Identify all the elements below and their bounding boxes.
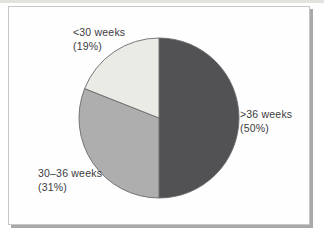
pie-label-text: 30–36 weeks (38, 167, 102, 181)
pie-chart-figure: <30 weeks (19%) >36 weeks (50%) 30–36 we… (8, 6, 310, 225)
pie-label-percent: (19%) (73, 40, 125, 54)
page-edge-strip (0, 0, 324, 3)
pie-label-percent: (50%) (240, 122, 292, 136)
pie-slice-36-weeks (159, 38, 239, 198)
pie-label-under-30-weeks: <30 weeks (19%) (73, 26, 125, 53)
pie-label-30-36-weeks: 30–36 weeks (31%) (38, 167, 102, 194)
pie-label-text: <30 weeks (73, 26, 125, 40)
pie-label-percent: (31%) (38, 181, 102, 195)
pie-label-over-36-weeks: >36 weeks (50%) (240, 108, 292, 135)
pie-label-text: >36 weeks (240, 108, 292, 122)
